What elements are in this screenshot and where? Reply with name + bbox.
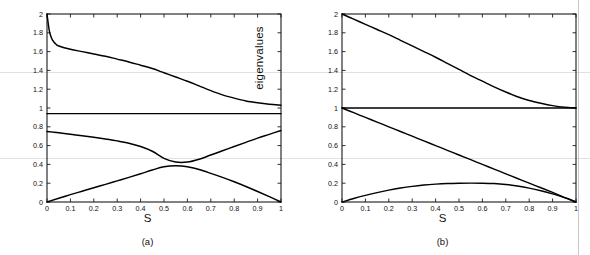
y-tick-label-a: 0.2 [33, 179, 43, 188]
y-tick-label-b: 0.4 [328, 160, 338, 169]
y-tick-label-a: 1.4 [33, 66, 43, 75]
page-edge-scan-line [578, 0, 579, 255]
panel-caption-b: (b) [295, 236, 590, 247]
y-tick-label-a: 1 [39, 104, 43, 113]
y-tick-label-a: 1.8 [33, 28, 43, 37]
panel-a: 00.10.20.30.40.50.60.70.80.9100.20.40.60… [0, 0, 295, 255]
y-tick-label-b: 1 [334, 104, 338, 113]
panel-b: 00.10.20.30.40.50.60.70.80.9100.20.40.60… [295, 0, 590, 255]
y-tick-label-b: 0.2 [328, 179, 338, 188]
figure-container: 00.10.20.30.40.50.60.70.80.9100.20.40.60… [0, 0, 590, 255]
y-tick-label-a: 1.2 [33, 85, 43, 94]
y-tick-label-b: 0 [334, 198, 338, 207]
curve-eigenvalue-3-a [47, 131, 281, 163]
x-axis-label-b: S [295, 212, 590, 224]
x-axis-label-a: S [0, 212, 295, 224]
curve-eigenvalue-4-a [47, 166, 281, 202]
y-axis-label-b: eigenvalues [253, 0, 269, 118]
y-tick-label-a: 2 [39, 10, 43, 19]
y-tick-label-b: 0.8 [328, 122, 338, 131]
panel-caption-a: (a) [0, 236, 295, 247]
y-tick-label-b: 0.6 [328, 141, 338, 150]
y-tick-label-a: 0.8 [33, 122, 43, 131]
y-tick-label-a: 0.6 [33, 141, 43, 150]
curve-eigenvalue-1-a [47, 14, 281, 105]
y-tick-label-b: 1.2 [328, 85, 338, 94]
plot-frame-a [47, 14, 281, 202]
curve-eigenvalue-3-b [342, 108, 576, 202]
y-tick-label-b: 2 [334, 10, 338, 19]
curve-eigenvalue-1-b [342, 14, 576, 108]
y-tick-label-b: 1.8 [328, 28, 338, 37]
y-tick-label-a: 0.4 [33, 160, 43, 169]
y-tick-label-b: 1.4 [328, 66, 338, 75]
y-tick-label-a: 1.6 [33, 47, 43, 56]
y-tick-label-b: 1.6 [328, 47, 338, 56]
y-tick-label-a: 0 [39, 198, 43, 207]
